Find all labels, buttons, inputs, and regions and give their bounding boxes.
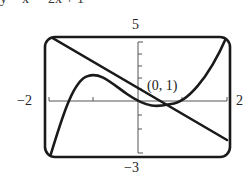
x-max-label: 2 [236, 94, 243, 108]
y-min-label: −3 [124, 161, 139, 175]
point-annotation: (0, 1) [147, 79, 177, 93]
axes [49, 42, 227, 153]
x-min-label: −2 [17, 94, 32, 108]
graph-plot [0, 0, 249, 185]
y-max-label: 5 [132, 18, 139, 32]
